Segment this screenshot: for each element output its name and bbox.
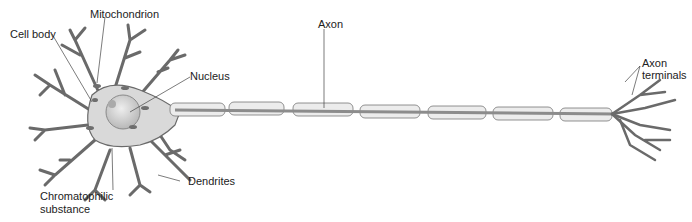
neuron-diagram: Mitochondrion Cell body Nucleus Axon Axo… <box>0 0 692 222</box>
label-nucleus: Nucleus <box>190 70 230 82</box>
label-axon-terminals-line2: terminals <box>642 69 687 81</box>
nucleus <box>106 95 140 129</box>
neuron-illustration <box>0 0 692 222</box>
label-dendrites: Dendrites <box>188 175 235 187</box>
label-mitochondrion: Mitochondrion <box>90 8 159 20</box>
label-cell-body: Cell body <box>10 28 56 40</box>
label-chromatophilic-line2: substance <box>40 203 90 215</box>
axon-terminals <box>612 80 675 160</box>
label-axon-terminals-line1: Axon <box>642 57 667 69</box>
nucleolus <box>108 100 116 108</box>
label-axon: Axon <box>318 18 343 30</box>
label-chromatophilic-line1: Chromatophilic <box>40 190 113 202</box>
